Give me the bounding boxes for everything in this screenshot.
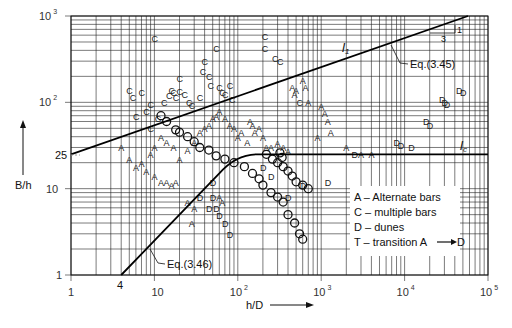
point-d: D [285, 193, 292, 203]
point-d: D [206, 204, 213, 214]
point-a: A [328, 128, 334, 138]
slope-run: 3 [441, 34, 446, 44]
legend-item-c: C – multiple bars [354, 206, 437, 218]
bar-regime-chart: CCCCCCCCCCCCCCCCCCCCCCCCCCCCCCCCCCCAAAAA… [0, 0, 512, 328]
point-d: D [227, 230, 234, 240]
point-d: D [444, 100, 451, 110]
legend-item-a: A – Alternate bars [354, 191, 441, 203]
point-c: C [222, 90, 229, 100]
point-a: A [151, 172, 157, 182]
point-a: A [171, 143, 177, 153]
point-a: A [303, 83, 309, 93]
point-a: A [314, 133, 320, 143]
point-a: A [191, 204, 197, 214]
up-arrow-icon [20, 120, 26, 128]
y-axis-label: B/h [15, 179, 32, 191]
x-tick-label: 10 [151, 286, 163, 298]
eq346-label: Eq.(3.46) [167, 258, 212, 270]
x-axis-label: h/D [246, 299, 263, 311]
y-tick-label: 1 [56, 269, 62, 281]
point-a: A [219, 198, 225, 208]
l1-label: l1 [342, 40, 349, 56]
transition-marker [279, 163, 287, 171]
x-tick-label: 103 [313, 284, 331, 298]
point-d: D [351, 150, 358, 160]
x-tick-labels: 110102103104105 [68, 284, 498, 298]
point-c: C [189, 101, 196, 111]
point-d: D [222, 219, 229, 229]
point-a: A [358, 150, 364, 160]
point-d: D [325, 178, 332, 188]
point-a: A [189, 219, 195, 229]
y-tick-label: 103 [39, 8, 57, 22]
point-a: A [126, 155, 132, 165]
x-tick-label: 105 [480, 284, 498, 298]
legend-item-t: T – transition A [354, 236, 428, 248]
eq346-leader [150, 249, 165, 264]
point-c: C [151, 34, 158, 44]
x-tick-label: 1 [68, 286, 74, 298]
y-tick-25: 25 [55, 149, 67, 161]
transition-marker [288, 172, 296, 180]
point-c: C [130, 93, 137, 103]
transition-marker [240, 163, 248, 171]
point-a: A [368, 150, 374, 160]
point-d: D [408, 143, 415, 153]
point-a: A [343, 143, 349, 153]
point-a: A [151, 143, 157, 153]
point-c: C [177, 74, 184, 84]
point-c: C [202, 57, 209, 67]
point-c: C [148, 100, 155, 110]
point-c: C [133, 112, 140, 122]
point-c: C [197, 93, 204, 103]
y-tick-label: 102 [39, 94, 57, 108]
point-c: C [207, 81, 214, 91]
point-a: A [325, 117, 331, 127]
point-d: D [427, 121, 434, 131]
point-c: C [138, 88, 145, 98]
point-a: A [118, 143, 124, 153]
point-a: A [292, 90, 298, 100]
x-axis-title: h/D [246, 299, 314, 311]
slope-triangle [430, 25, 455, 33]
point-c: C [262, 44, 269, 54]
lc-label: lc [460, 138, 467, 154]
y-tick-labels: 110102103 [39, 8, 62, 281]
point-a: A [177, 155, 183, 165]
point-a: A [305, 98, 311, 108]
right-arrow-icon [306, 302, 314, 308]
point-d: D [210, 193, 217, 203]
point-c: C [262, 32, 269, 42]
point-a: A [138, 159, 144, 169]
point-d: D [460, 88, 467, 98]
point-c: C [213, 44, 220, 54]
slope-rise: 1 [457, 25, 462, 35]
point-a: A [173, 178, 179, 188]
point-c: C [227, 81, 234, 91]
point-d: D [260, 163, 267, 173]
point-d: D [398, 141, 405, 151]
legend-item-d: D – dunes [354, 221, 405, 233]
transition-marker [212, 152, 220, 160]
point-d: D [268, 172, 275, 182]
y-tick-label: 10 [46, 183, 58, 195]
y-axis-title: B/h [15, 120, 32, 191]
point-a: A [244, 138, 250, 148]
x-tick-4: 4 [117, 279, 123, 291]
point-a: A [260, 133, 266, 143]
point-a: A [164, 138, 170, 148]
point-c: C [277, 57, 284, 67]
eq345-label: Eq.(3.45) [410, 58, 455, 70]
x-tick-label: 102 [230, 284, 248, 298]
point-a: A [185, 146, 191, 156]
legend-transition-target: D [457, 236, 465, 248]
x-tick-label: 104 [397, 284, 415, 298]
